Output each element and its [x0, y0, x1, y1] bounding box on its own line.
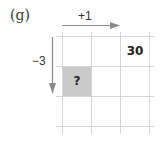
horizontal-step-label: +1 — [78, 9, 92, 23]
right-arrow-icon — [62, 22, 120, 29]
down-arrow-icon — [49, 37, 56, 94]
grid-cell-unknown: ? — [63, 74, 91, 88]
grid-cell-value: 30 — [121, 44, 149, 58]
vertical-step-label: −3 — [32, 54, 46, 68]
